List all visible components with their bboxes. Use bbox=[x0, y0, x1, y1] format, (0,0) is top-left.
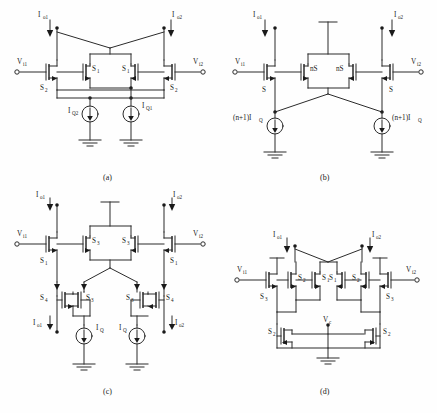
node-c-io2-term bbox=[162, 330, 166, 334]
label-d-s2-bot-left: S bbox=[268, 328, 272, 336]
label-a-iq2: I bbox=[68, 107, 71, 115]
wire-a-cross-1 bbox=[57, 32, 110, 48]
label-a-io1: I bbox=[38, 11, 41, 19]
mosfet-c-bot-inner-left bbox=[73, 282, 90, 325]
mosfet-d-core-4 bbox=[361, 262, 380, 300]
label-c-s3-core-right-sub: 3 bbox=[127, 240, 130, 246]
panel-c: I o1 I o2 V i1 S 1 bbox=[15, 191, 205, 396]
label-c-io1-bot-sub: o1 bbox=[37, 322, 43, 328]
panel-d: I o1 I o2 V i1 S 3 bbox=[235, 231, 419, 396]
label-d-s3-right: S bbox=[386, 293, 390, 301]
label-d-io2: I bbox=[372, 231, 375, 239]
mosfet-c-bot-outer-right bbox=[148, 282, 167, 332]
arrow-c-io1-bot bbox=[47, 316, 53, 330]
node-c-out-left bbox=[55, 203, 59, 207]
label-a-iq1: I bbox=[142, 102, 145, 110]
label-d-vi2-sub: i2 bbox=[412, 269, 416, 275]
label-d-io2-sub: o2 bbox=[376, 234, 382, 240]
figure-sheet: I o1 I o2 V i1 S bbox=[0, 0, 437, 413]
label-a-s2-left: S bbox=[40, 84, 44, 92]
label-c-s3-bot-right: S bbox=[126, 294, 130, 302]
current-source-b-right bbox=[371, 112, 393, 158]
wire-a-cross-2 bbox=[110, 32, 164, 48]
wire-d-cross-1 bbox=[295, 249, 328, 262]
label-c-io2-top: I bbox=[173, 191, 176, 199]
label-d-io1-sub: o1 bbox=[277, 234, 283, 240]
arrow-b-io1 bbox=[262, 20, 268, 37]
mosfet-c-core-right bbox=[131, 236, 164, 260]
mosfet-b-core-right bbox=[349, 64, 382, 88]
label-c-io1-top-sub: o1 bbox=[40, 194, 46, 200]
label-d-s3-left-sub: 3 bbox=[265, 296, 268, 302]
arrow-d-io1 bbox=[284, 238, 290, 253]
label-c-iq-left-sub: Q bbox=[100, 327, 104, 333]
label-b-src-right-sub: Q bbox=[418, 117, 422, 123]
label-d-s2-bot-right: S bbox=[383, 328, 387, 336]
label-d-vc-sub: c bbox=[329, 319, 332, 325]
node-c-out-right bbox=[162, 203, 166, 207]
label-b-io1: I bbox=[253, 11, 256, 19]
arrow-b-io2 bbox=[389, 20, 395, 37]
label-d-s1-core2: S bbox=[322, 274, 326, 282]
label-c-io1-top: I bbox=[36, 191, 39, 199]
label-b-io1-sub: o1 bbox=[257, 14, 263, 20]
caption-b: (b) bbox=[320, 173, 330, 182]
arrow-a-io2 bbox=[168, 20, 174, 37]
label-c-iq-right-sub: Q bbox=[123, 327, 127, 333]
mosfet-d-bot-left bbox=[277, 324, 364, 348]
label-a-s1-right: S bbox=[122, 65, 126, 73]
label-c-s1-right: S bbox=[170, 257, 174, 265]
mosfet-a-core-left bbox=[57, 64, 90, 88]
wire-d-cross-2 bbox=[328, 249, 362, 262]
mosfet-c-bot-inner-right bbox=[131, 282, 148, 325]
wire-c-cross-2 bbox=[110, 268, 137, 282]
label-d-s2-core4: S bbox=[352, 274, 356, 282]
label-c-s4-left: S bbox=[40, 294, 44, 302]
current-source-a-right bbox=[120, 98, 142, 146]
label-b-vi2-sub: i2 bbox=[417, 61, 421, 67]
label-c-s1-left: S bbox=[40, 257, 44, 265]
label-c-s3-bot-left-sub: 3 bbox=[91, 297, 94, 303]
label-c-s1-left-sub: 1 bbox=[45, 260, 48, 266]
label-c-s3-core-left-sub: 3 bbox=[97, 240, 100, 246]
mosfet-d-right-input bbox=[373, 258, 419, 312]
label-a-vi2-sub: i2 bbox=[199, 61, 203, 67]
label-c-s4-right: S bbox=[166, 294, 170, 302]
label-b-vi1-sub: i1 bbox=[241, 61, 245, 67]
node-b-out-right bbox=[380, 26, 384, 30]
label-d-s3-left: S bbox=[260, 293, 264, 301]
label-c-io2-bot: I bbox=[175, 319, 178, 327]
current-source-a-left bbox=[79, 98, 101, 146]
label-a-vi1-sub: i1 bbox=[23, 61, 27, 67]
caption-c: (c) bbox=[103, 387, 112, 396]
label-c-iq-right: I bbox=[119, 324, 122, 332]
current-source-c-left bbox=[73, 325, 95, 370]
label-a-s1-left: S bbox=[92, 65, 96, 73]
arrow-d-io2 bbox=[367, 238, 373, 253]
mosfet-c-bot-outer-left bbox=[54, 282, 73, 332]
label-c-io2-bot-sub: o2 bbox=[179, 322, 185, 328]
label-c-s3-bot-left: S bbox=[86, 294, 90, 302]
label-a-s2-right-sub: 2 bbox=[175, 87, 178, 93]
label-d-s2-bot-right-sub: 2 bbox=[388, 331, 391, 337]
caption-a: (a) bbox=[103, 173, 112, 182]
mosfet-d-bot-right bbox=[328, 324, 380, 348]
label-c-io1-bot: I bbox=[33, 319, 36, 327]
panel-a: I o1 I o2 V i1 S bbox=[15, 11, 205, 182]
label-a-s1-right-sub: 1 bbox=[127, 68, 130, 74]
wire-c-cross-1 bbox=[84, 268, 110, 282]
arrow-c-io2-top bbox=[169, 198, 175, 211]
wire-b-cross-1 bbox=[275, 94, 328, 112]
ground-d bbox=[317, 334, 339, 364]
label-a-s2-left-sub: 2 bbox=[45, 87, 48, 93]
label-d-s2-core1: S bbox=[298, 274, 302, 282]
label-a-io1-sub: o1 bbox=[43, 14, 49, 20]
mosfet-c-left-input bbox=[15, 232, 57, 282]
label-a-s2-right: S bbox=[170, 84, 174, 92]
label-d-vi1-sub: i1 bbox=[243, 269, 247, 275]
node-a-out-right bbox=[162, 26, 166, 30]
label-c-s1-right-sub: 1 bbox=[175, 260, 178, 266]
label-c-s3-core-left: S bbox=[92, 237, 96, 245]
label-b-src-left: (n+1)I bbox=[233, 114, 252, 122]
label-a-iq1-sub: Q1 bbox=[146, 105, 153, 111]
